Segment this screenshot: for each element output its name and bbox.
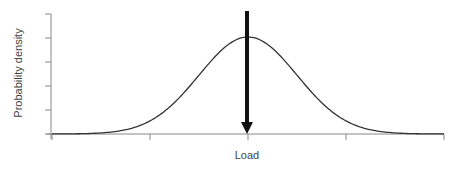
x-axis-label: Load <box>207 149 287 161</box>
x-axis <box>47 134 444 140</box>
y-axis-label: Probability density <box>12 28 26 118</box>
mean-arrow <box>241 11 253 134</box>
y-axis <box>45 14 51 139</box>
chart-canvas <box>0 0 458 172</box>
